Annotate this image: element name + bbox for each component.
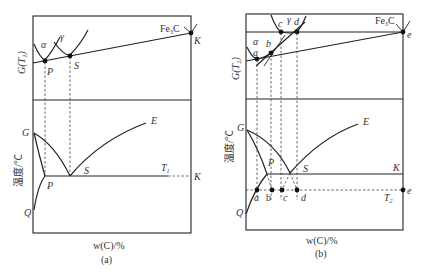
- label-K-top: K: [193, 35, 202, 46]
- point-d-bottom: [295, 188, 300, 193]
- panel-b-caption: (b): [315, 248, 327, 260]
- extension-GS: [282, 173, 290, 190]
- panel-b: α γ Fe3C a b c d e G E P S K T2: [223, 14, 412, 260]
- panel-a-xlabel: w(C)/%: [93, 240, 125, 252]
- panel-b-xlabel: w(C)/%: [306, 235, 338, 247]
- point-K-top: [189, 31, 194, 36]
- common-tangent-line: [33, 33, 191, 63]
- panel-a: α γ Fe3C P S K G E P S T1 K Q G(T₁) 温度/℃…: [12, 16, 202, 266]
- label-c-bottom: c: [283, 192, 288, 203]
- label-d-top: d: [294, 16, 300, 27]
- panel-a-bottom-ylabel: 温度/℃: [12, 154, 24, 187]
- label-e-bottom: e: [407, 185, 412, 196]
- panel-a-caption: (a): [101, 254, 112, 266]
- label-G: G: [22, 127, 29, 138]
- label-e-top: e: [407, 29, 412, 40]
- label-alpha-b: α: [253, 36, 259, 47]
- label-S-bottom: S: [84, 165, 89, 176]
- label-T1: T1: [161, 162, 170, 174]
- label-b-top: b: [266, 38, 271, 49]
- label-E-b: E: [362, 116, 369, 127]
- label-S-top: S: [74, 60, 79, 71]
- extension-SE: [290, 173, 297, 190]
- label-fe3c: Fe3C: [160, 23, 180, 35]
- label-Q-b: Q: [236, 207, 244, 218]
- point-e-top: [401, 30, 406, 35]
- panel-b-top-ylabel: G(T₂): [230, 56, 242, 80]
- phase-diagram-figure: α γ Fe3C P S K G E P S T1 K Q G(T₁) 温度/℃…: [0, 0, 423, 274]
- label-T2: T2: [384, 192, 393, 204]
- label-E: E: [150, 115, 157, 126]
- label-P-b: P: [267, 157, 274, 168]
- label-S-b: S: [303, 163, 308, 174]
- SE-line: [70, 123, 146, 176]
- label-K-bottom: K: [193, 171, 202, 182]
- label-b-bottom: b: [266, 192, 271, 203]
- label-Q: Q: [24, 207, 32, 218]
- label-gamma-b: γ: [287, 14, 292, 25]
- label-a-top: a: [253, 47, 258, 58]
- point-e-bottom: [401, 188, 406, 193]
- label-K-b: K: [392, 162, 401, 173]
- label-a-bottom: a: [254, 192, 259, 203]
- label-G-b: G: [237, 122, 244, 133]
- label-c-top: c: [278, 18, 283, 29]
- label-d-bottom: d: [301, 192, 307, 203]
- label-P-top: P: [46, 66, 53, 77]
- SE-line-b: [290, 124, 358, 173]
- panel-b-bottom-ylabel: 温度/℃: [223, 130, 235, 163]
- panel-a-top-ylabel: G(T₁): [16, 50, 28, 74]
- label-fe3c-b: Fe3C: [375, 15, 395, 27]
- label-alpha: α: [41, 39, 47, 50]
- PQ-line: [34, 176, 45, 210]
- alpha-free-energy-curve: [34, 37, 60, 60]
- label-P-bottom: P: [46, 180, 53, 191]
- label-gamma: γ: [60, 31, 65, 42]
